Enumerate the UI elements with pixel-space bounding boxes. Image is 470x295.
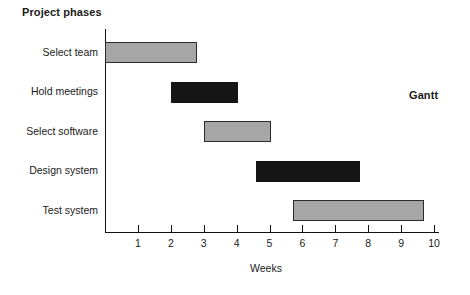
gantt-chart: Project phases Gantt Select teamHold mee… — [0, 0, 470, 295]
category-label: Select team — [43, 46, 98, 58]
x-axis-tick-label: 6 — [290, 237, 314, 249]
category-label: Design system — [29, 164, 98, 176]
x-axis-tick-label: 8 — [356, 237, 380, 249]
x-axis-title-text: Weeks — [250, 262, 282, 274]
category-label: Test system — [43, 204, 98, 216]
category-label: Hold meetings — [31, 85, 98, 97]
gantt-bar[interactable] — [105, 42, 197, 63]
x-axis-tick — [434, 225, 435, 233]
gantt-bar[interactable] — [204, 121, 271, 142]
x-axis-tick-label: 4 — [225, 237, 249, 249]
x-axis-tick — [270, 225, 271, 233]
x-axis-tick-label: 2 — [159, 237, 183, 249]
gantt-bar[interactable] — [293, 200, 425, 221]
gantt-bar[interactable] — [256, 161, 360, 182]
x-axis-tick — [302, 225, 303, 233]
x-axis-tick — [401, 225, 402, 233]
chart-annotation-gantt: Gantt — [409, 89, 438, 101]
x-axis-line — [105, 232, 439, 233]
x-axis-tick — [138, 225, 139, 233]
x-axis-tick — [368, 225, 369, 233]
x-axis-tick — [171, 225, 172, 233]
x-axis-title: Weeks — [0, 262, 470, 274]
category-label: Select software — [26, 125, 98, 137]
x-axis-tick — [204, 225, 205, 233]
gantt-bar[interactable] — [171, 82, 238, 103]
x-axis-tick-label: 1 — [126, 237, 150, 249]
x-axis-tick-label: 7 — [323, 237, 347, 249]
x-axis-tick-label: 10 — [422, 237, 446, 249]
x-axis-tick-label: 5 — [258, 237, 282, 249]
x-axis-tick — [237, 225, 238, 233]
page-title: Project phases — [22, 6, 102, 18]
x-axis-tick-label: 3 — [192, 237, 216, 249]
x-axis-tick — [335, 225, 336, 233]
x-axis-tick-label: 9 — [389, 237, 413, 249]
